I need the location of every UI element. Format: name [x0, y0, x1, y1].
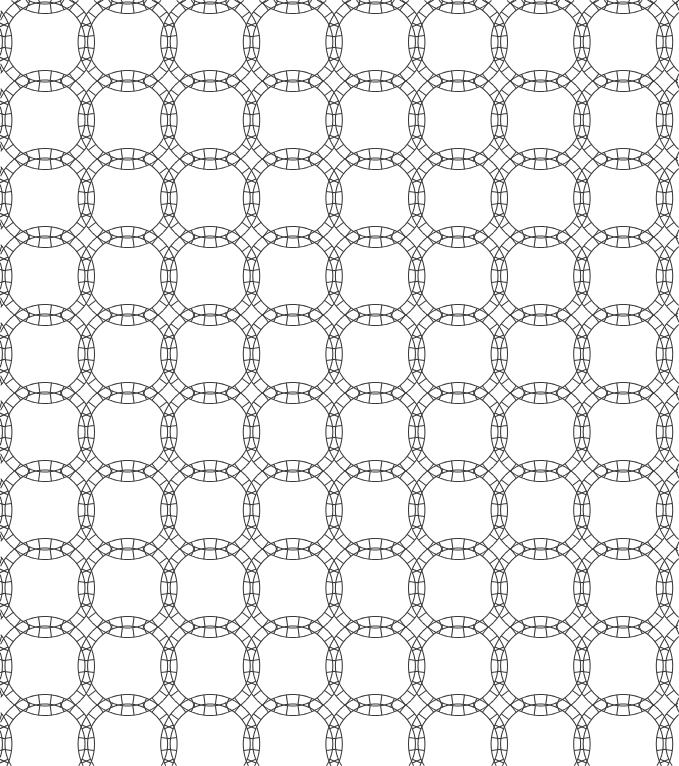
pattern-canvas	[0, 0, 679, 766]
double-wedding-ring-svg	[0, 0, 679, 766]
